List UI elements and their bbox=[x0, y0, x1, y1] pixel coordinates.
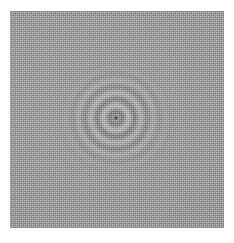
interference-fringe-pattern bbox=[10, 11, 224, 228]
image-plate bbox=[10, 11, 224, 228]
figure-root: Square grey plate showing a set of conce… bbox=[0, 0, 234, 243]
